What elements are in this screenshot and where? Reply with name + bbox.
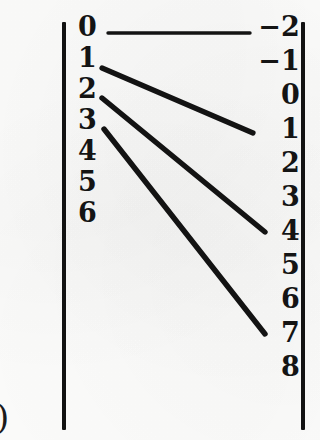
page-artifact-glyph: ) [0, 400, 9, 434]
codomain-value-8: 6 [281, 285, 300, 319]
domain-value-0: 0 [78, 13, 97, 44]
domain-value-3: 3 [78, 106, 97, 137]
domain-number-column: 0123456 [78, 13, 112, 230]
codomain-value-3: 1 [281, 115, 300, 149]
mapping-line-3-to-7 [104, 129, 265, 334]
codomain-value-4: 2 [281, 149, 300, 183]
codomain-value-9: 7 [281, 319, 300, 353]
domain-value-4: 4 [78, 137, 97, 168]
codomain-value-5: 3 [281, 183, 300, 217]
codomain-value-7: 5 [281, 251, 300, 285]
domain-value-1: 1 [78, 44, 97, 75]
codomain-value-0: −2 [258, 13, 300, 47]
mapping-line-1-to-1 [102, 68, 253, 133]
domain-value-6: 6 [78, 199, 97, 230]
codomain-number-column: −2−1012345678 [252, 13, 300, 387]
codomain-value-6: 4 [281, 217, 300, 251]
codomain-value-2: 0 [281, 81, 300, 115]
domain-value-2: 2 [78, 75, 97, 106]
codomain-value-1: −1 [258, 47, 300, 81]
mapping-line-2-to-4 [102, 98, 265, 232]
codomain-value-10: 8 [281, 353, 300, 387]
mapping-diagram-figure: 0123456 −2−1012345678 ) [0, 0, 320, 440]
domain-value-5: 5 [78, 168, 97, 199]
